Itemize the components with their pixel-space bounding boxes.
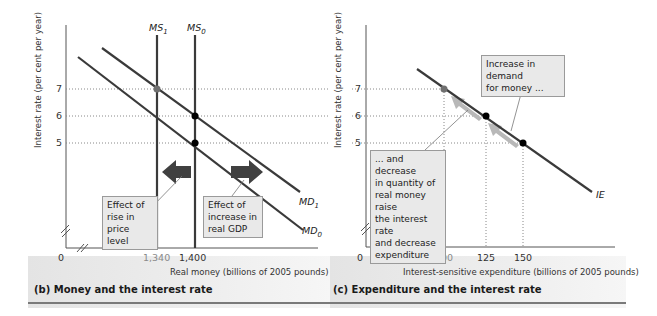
panel-b-axes bbox=[61, 25, 318, 252]
panel-c-y-axis-label: Interest rate (per cent per year) bbox=[333, 12, 343, 148]
movement-arrow-lower-icon bbox=[488, 123, 519, 148]
panel-c-y-tick-6: 6 bbox=[355, 110, 361, 121]
equilibrium-point-ms0-md0 bbox=[192, 140, 199, 147]
panel-c-x-tick-150: 150 bbox=[514, 252, 532, 263]
panel-b-x-tick-origin: 0 bbox=[58, 252, 64, 263]
equilibrium-point-ms1-md1 bbox=[154, 86, 161, 93]
point-100-7 bbox=[441, 86, 448, 93]
ms0-label: MS0 bbox=[187, 22, 206, 36]
ms1-label: MS1 bbox=[149, 22, 168, 36]
movement-arrow-upper-icon bbox=[451, 96, 482, 121]
panel-b-y-tick-7: 7 bbox=[56, 83, 62, 94]
price-level-note: Effect of rise in price level bbox=[102, 196, 158, 250]
real-gdp-leader-line bbox=[232, 180, 244, 196]
panel-c-x-axis-label: Interest-sensitive expenditure (billions… bbox=[403, 267, 639, 277]
panel-c-x-tick-125: 125 bbox=[477, 252, 495, 263]
ie-label: IE bbox=[596, 189, 605, 200]
point-150-5 bbox=[520, 140, 527, 147]
panel-b-y-axis-label: Interest rate (per cent per year) bbox=[33, 12, 43, 148]
panel-b-x-tick-1340: 1,340 bbox=[143, 252, 170, 263]
md1-curve bbox=[102, 48, 300, 192]
panel-b-y-tick-6: 6 bbox=[56, 110, 62, 121]
decrease-leader-line bbox=[425, 110, 468, 150]
panel-c-x-tick-origin: 0 bbox=[357, 252, 363, 263]
panel-c-y-tick-5: 5 bbox=[355, 137, 361, 148]
md1-label: MD1 bbox=[299, 196, 319, 210]
md0-label: MD0 bbox=[302, 225, 322, 239]
point-125-6 bbox=[483, 113, 490, 120]
panel-b-y-tick-5: 5 bbox=[56, 137, 62, 148]
panel-b-x-tick-1400: 1,400 bbox=[179, 252, 206, 263]
real-gdp-note: Effect of increase in real GDP bbox=[203, 196, 263, 238]
panel-b-x-axis-label: Real money (billions of 2005 pounds) bbox=[170, 267, 328, 277]
panel-b-caption: (b) Money and the interest rate bbox=[34, 284, 212, 295]
left-shift-arrow-icon bbox=[162, 160, 191, 184]
panel-c-y-tick-7: 7 bbox=[355, 83, 361, 94]
right-shift-arrow-icon bbox=[231, 160, 263, 184]
decrease-note: ... and decrease in quantity of real mon… bbox=[370, 150, 446, 264]
panel-c-caption: (c) Expenditure and the interest rate bbox=[333, 284, 542, 295]
equilibrium-point-ms0-md1 bbox=[192, 113, 199, 120]
demand-note: Increase in demand for money ... bbox=[481, 55, 565, 97]
